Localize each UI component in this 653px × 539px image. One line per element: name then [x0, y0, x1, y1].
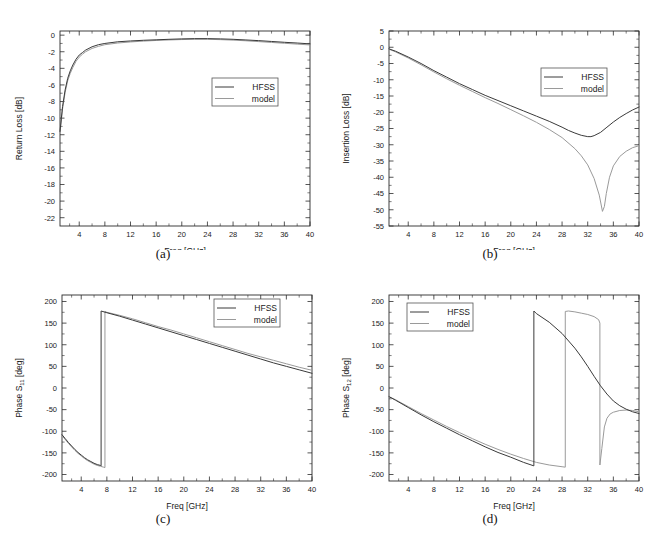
x-tick-label: 12 — [126, 230, 134, 239]
panel-a: 4812162024283236400-2-4-6-8-10-12-14-16-… — [0, 0, 326, 270]
x-tick-label: 32 — [584, 485, 592, 494]
panel-b: 48121620242832364050-5-10-15-20-25-30-35… — [327, 0, 653, 270]
x-tick-label: 32 — [255, 230, 263, 239]
x-tick-label: 24 — [203, 230, 211, 239]
y-tick-label: 0 — [380, 384, 384, 393]
x-tick-label: 4 — [406, 485, 410, 494]
y-tick-label: -10 — [373, 76, 384, 85]
y-tick-label: 50 — [376, 362, 384, 371]
panel-b-plot: 48121620242832364050-5-10-15-20-25-30-35… — [327, 0, 653, 250]
y-tick-label: 0 — [380, 43, 384, 52]
legend: HFSSmodel — [212, 78, 278, 106]
y-tick-label: -8 — [48, 97, 55, 106]
x-tick-label: 16 — [481, 485, 489, 494]
x-tick-label: 40 — [635, 230, 643, 239]
legend: HFSSmodel — [214, 299, 280, 327]
panel-d: 481216202428323640200150100500-50-100-15… — [327, 273, 653, 539]
y-axis-title: Phase S12 [deg] — [341, 358, 352, 418]
x-tick-label: 24 — [205, 485, 213, 494]
series-model — [62, 311, 312, 467]
x-tick-label: 12 — [455, 230, 463, 239]
y-axis-title: Return Loss [dB] — [14, 97, 24, 160]
y-tick-label: -20 — [373, 108, 384, 117]
y-axis-title: Insertion Loss [dB] — [341, 93, 351, 163]
x-tick-label: 36 — [280, 230, 288, 239]
x-tick-label: 8 — [103, 230, 107, 239]
x-tick-label: 12 — [128, 485, 136, 494]
y-tick-label: -100 — [42, 427, 57, 436]
x-tick-label: 20 — [507, 485, 515, 494]
series-model — [389, 311, 639, 467]
x-tick-label: 16 — [481, 230, 489, 239]
y-tick-label: -150 — [369, 449, 384, 458]
x-tick-label: 28 — [229, 230, 237, 239]
x-tick-label: 24 — [532, 485, 540, 494]
x-axis-title: Freq [GHz] — [493, 501, 535, 511]
y-tick-label: 100 — [44, 341, 57, 350]
y-tick-label: -18 — [44, 180, 55, 189]
y-tick-label: -200 — [42, 470, 57, 479]
x-tick-label: 4 — [79, 485, 83, 494]
panel-c: 481216202428323640200150100500-50-100-15… — [0, 273, 326, 539]
y-tick-label: -55 — [373, 222, 384, 231]
legend-label-model: model — [254, 315, 277, 325]
figure-root: 4812162024283236400-2-4-6-8-10-12-14-16-… — [0, 0, 653, 539]
legend: HFSSmodel — [407, 303, 473, 331]
legend-label-hfss: HFSS — [252, 82, 275, 92]
y-axis-title: Phase S11 [deg] — [14, 358, 25, 418]
y-tick-label: -2 — [48, 48, 55, 57]
panel-c-plot: 481216202428323640200150100500-50-100-15… — [0, 273, 326, 516]
plot-frame — [60, 31, 310, 226]
panel-d-plot: 481216202428323640200150100500-50-100-15… — [327, 273, 653, 516]
y-tick-label: 100 — [371, 341, 384, 350]
x-tick-label: 16 — [152, 230, 160, 239]
x-tick-label: 28 — [558, 485, 566, 494]
x-tick-label: 4 — [77, 230, 81, 239]
y-tick-label: 200 — [44, 297, 57, 306]
y-tick-label: -12 — [44, 131, 55, 140]
legend-label-model: model — [252, 94, 275, 104]
legend-label-model: model — [581, 84, 604, 94]
y-tick-label: 150 — [44, 319, 57, 328]
series-hfss — [62, 311, 312, 466]
y-tick-label: -100 — [369, 427, 384, 436]
x-tick-label: 8 — [432, 230, 436, 239]
y-tick-label: -6 — [48, 81, 55, 90]
y-tick-label: -35 — [373, 157, 384, 166]
legend-label-hfss: HFSS — [254, 303, 277, 313]
x-tick-label: 36 — [609, 485, 617, 494]
y-tick-label: 0 — [53, 384, 57, 393]
y-tick-label: -150 — [42, 449, 57, 458]
y-tick-label: -25 — [373, 124, 384, 133]
x-tick-label: 40 — [306, 230, 314, 239]
y-tick-label: 200 — [371, 297, 384, 306]
y-tick-label: -5 — [377, 59, 384, 68]
x-tick-label: 8 — [432, 485, 436, 494]
y-tick-label: -200 — [369, 470, 384, 479]
y-tick-label: -14 — [44, 147, 55, 156]
x-tick-label: 12 — [455, 485, 463, 494]
y-tick-label: -45 — [373, 189, 384, 198]
panel-c-caption: (c) — [0, 511, 326, 527]
x-tick-label: 36 — [282, 485, 290, 494]
x-tick-label: 24 — [532, 230, 540, 239]
x-tick-label: 32 — [257, 485, 265, 494]
plot-frame — [389, 31, 639, 226]
y-tick-label: -15 — [373, 92, 384, 101]
x-tick-label: 20 — [178, 230, 186, 239]
y-tick-label: -4 — [48, 64, 55, 73]
x-tick-label: 40 — [635, 485, 643, 494]
legend-label-hfss: HFSS — [447, 307, 470, 317]
y-tick-label: -22 — [44, 214, 55, 223]
legend: HFSSmodel — [541, 68, 607, 96]
y-tick-label: 0 — [51, 31, 55, 40]
panel-a-caption: (a) — [0, 246, 326, 262]
y-tick-label: -20 — [44, 197, 55, 206]
x-tick-label: 4 — [406, 230, 410, 239]
x-tick-label: 16 — [154, 485, 162, 494]
panel-b-caption: (b) — [327, 246, 653, 262]
series-hfss — [389, 311, 639, 466]
y-tick-label: -10 — [44, 114, 55, 123]
y-tick-label: -50 — [46, 405, 57, 414]
x-tick-label: 32 — [584, 230, 592, 239]
